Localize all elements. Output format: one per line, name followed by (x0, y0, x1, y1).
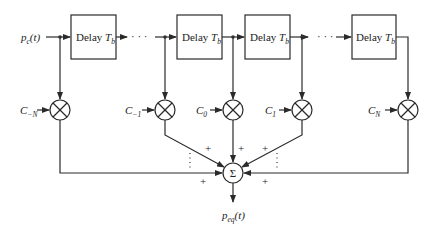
ellipsis-1: · · · (131, 30, 148, 42)
delay-block-2: Delay Tb (177, 15, 222, 59)
multiplier-1 (155, 100, 175, 120)
input-label: pc(t) (20, 31, 41, 46)
sum-input-1 (165, 120, 224, 167)
sum-input-0 (60, 120, 222, 173)
plus-4: + (262, 175, 268, 187)
multiplier-3 (292, 100, 312, 120)
delay-block-1: Delay Tb (71, 15, 116, 59)
equalizer-diagram: pc(t) Delay Tb · · · Delay Tb Delay Tb ·… (0, 0, 434, 236)
coef-label-0: C−N (20, 104, 38, 119)
coef-label-4: CN (368, 104, 381, 119)
sigma-icon: Σ (230, 167, 236, 179)
multiplier-4 (398, 100, 418, 120)
coef-label-1: C−1 (125, 104, 141, 119)
output-label: peq(t) (221, 209, 245, 224)
plus-2: + (238, 142, 244, 154)
delay-block-4: Delay Tb (352, 15, 396, 59)
summer: Σ (223, 163, 243, 183)
plus-0: + (200, 175, 206, 187)
multiplier-0 (50, 100, 70, 120)
coef-label-3: C1 (265, 104, 276, 119)
plus-3: + (262, 142, 268, 154)
sum-input-3 (242, 120, 302, 167)
plus-1: + (205, 142, 211, 154)
coef-label-2: C0 (196, 104, 207, 119)
sum-input-4 (244, 120, 408, 173)
multiplier-2 (223, 100, 243, 120)
delay4-out (396, 37, 408, 99)
ellipsis-2: · · · (317, 30, 334, 42)
delay-block-3: Delay Tb (245, 15, 290, 59)
